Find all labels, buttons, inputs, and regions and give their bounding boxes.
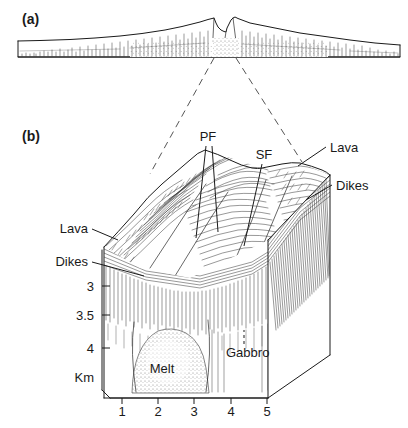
label-dikes-right: Dikes <box>336 178 369 193</box>
depth-tick-label-3: 3 <box>87 279 94 294</box>
depth-axis-unit-label: Km <box>75 370 95 385</box>
mid-ocean-ridge-figure: (a) <box>0 0 408 428</box>
crust-stipple-right <box>238 42 328 57</box>
label-gabbro: Gabbro <box>226 345 269 360</box>
distance-tick-label-5: 5 <box>263 404 270 419</box>
figure-container: (a) <box>0 0 408 428</box>
distance-tick-label-3: 3 <box>190 404 197 419</box>
label-lava-left: Lava <box>60 221 89 236</box>
distance-tick-label-4: 4 <box>227 404 234 419</box>
distance-tick-label-1: 1 <box>118 404 125 419</box>
depth-tick-label-3p5: 3.5 <box>76 308 94 323</box>
panel-b-label: (b) <box>22 128 40 144</box>
label-lava-right: Lava <box>330 140 359 155</box>
distance-tick-label-2: 2 <box>154 404 161 419</box>
label-melt: Melt <box>150 361 175 376</box>
label-dikes-left: Dikes <box>55 254 88 269</box>
panel-a-label: (a) <box>22 11 39 27</box>
axial-stipple-zone <box>212 38 239 57</box>
label-sf: SF <box>256 147 273 162</box>
depth-tick-label-4: 4 <box>87 341 94 356</box>
label-pf: PF <box>200 129 217 144</box>
